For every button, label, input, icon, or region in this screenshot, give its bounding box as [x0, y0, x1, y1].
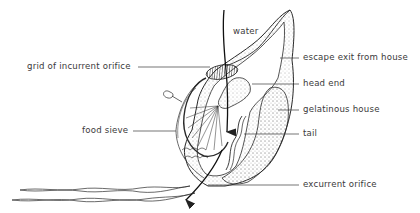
- trailing-filaments: [12, 186, 195, 202]
- label-food-sieve: food sieve: [82, 126, 128, 135]
- label-escape-exit: escape exit from house: [303, 53, 408, 62]
- larvacean-house-diagram: water grid of incurrent orifice escape e…: [0, 0, 420, 213]
- label-excurrent-orifice: excurrent orifice: [303, 180, 377, 189]
- appendage-loop: [164, 91, 182, 102]
- label-tail: tail: [303, 129, 317, 138]
- label-water: water: [233, 27, 259, 36]
- label-head-end: head end: [303, 79, 345, 88]
- label-gelatinous-house: gelatinous house: [303, 105, 380, 114]
- label-grid-of-incurrent-orifice: grid of incurrent orifice: [27, 62, 131, 71]
